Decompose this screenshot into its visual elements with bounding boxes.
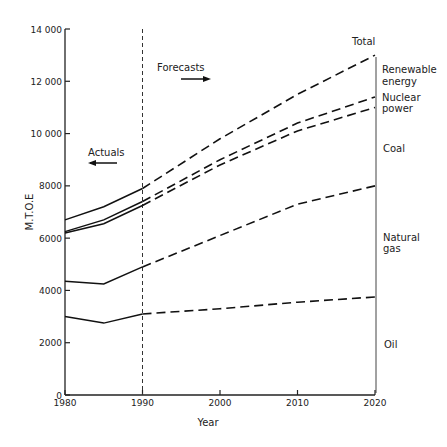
y-tick-label: 4000	[39, 286, 62, 296]
x-tick-label: 2010	[286, 398, 309, 408]
axes: 0200040006000800010 00012 00014 00019801…	[31, 25, 387, 409]
label-total: Total	[351, 36, 375, 47]
y-tick-label: 14 000	[31, 25, 63, 35]
label-gas-1: Natural	[383, 232, 420, 243]
series-lines	[65, 55, 375, 323]
label-renewable-1: Renewable	[382, 64, 437, 75]
y-tick-label: 12 000	[31, 77, 63, 87]
x-tick-label: 2020	[364, 398, 387, 408]
arrow-left-icon	[88, 160, 117, 166]
y-tick-label: 2000	[39, 338, 62, 348]
line-actual-natural-gas-upper-bound	[65, 267, 143, 284]
x-axis-label: Year	[196, 417, 219, 428]
arrow-right-icon	[181, 76, 211, 82]
line-forecast-nuclear-power-upper-bound	[143, 97, 376, 202]
y-tick-label: 10 000	[31, 129, 63, 139]
label-nuclear-1: Nuclear	[382, 92, 421, 103]
y-axis-label: M.T.O.E	[24, 194, 35, 231]
y-tick-label: 8000	[39, 181, 62, 191]
x-tick-label: 1980	[54, 398, 77, 408]
line-actual-oil-upper-bound	[65, 314, 143, 323]
label-nuclear-2: power	[382, 103, 414, 114]
annotation-actuals: Actuals	[88, 147, 125, 158]
y-tick-label: 6000	[39, 234, 62, 244]
x-tick-label: 2000	[209, 398, 232, 408]
label-renewable-2: energy	[382, 76, 417, 87]
line-forecast-natural-gas-upper-bound	[143, 186, 376, 267]
line-forecast-coal-upper-bound	[143, 107, 376, 205]
label-gas-2: gas	[383, 243, 401, 254]
annotation-forecasts: Forecasts	[157, 62, 205, 73]
line-forecast-total	[143, 55, 376, 188]
line-actual-total	[65, 188, 143, 219]
label-oil: Oil	[384, 339, 397, 350]
label-coal: Coal	[383, 143, 405, 154]
x-tick-label: 1990	[131, 398, 154, 408]
energy-forecast-chart: 0200040006000800010 00012 00014 00019801…	[0, 0, 447, 447]
labels: Actuals Forecasts Year M.T.O.E Total Ren…	[24, 36, 437, 428]
line-forecast-oil-upper-bound	[143, 297, 376, 314]
